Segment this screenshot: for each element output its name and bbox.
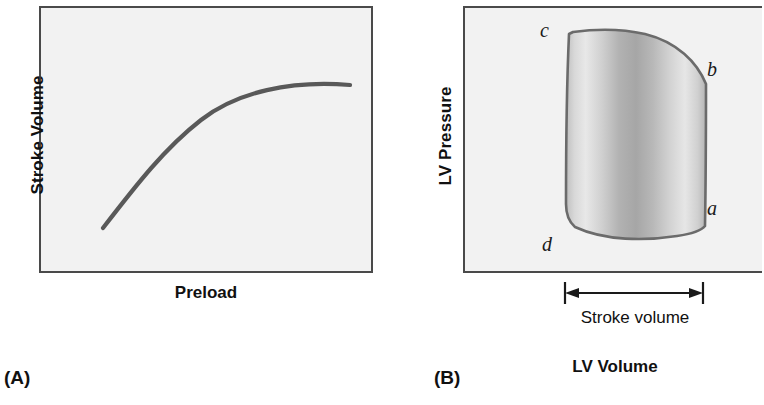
stroke-volume-dimension-arrow (555, 280, 715, 306)
panel-b-x-axis-label: LV Volume (520, 357, 710, 377)
frank-starling-curve (103, 84, 350, 228)
panel-b-y-axis-label: LV Pressure (436, 56, 456, 216)
panel-b-tag: (B) (434, 367, 460, 389)
panel-b-pv-loop-svg (465, 8, 764, 275)
pv-loop-point-label-a: a (707, 197, 717, 220)
stroke-volume-caption: Stroke volume (540, 308, 730, 328)
panel-a-x-axis-label: Preload (39, 283, 373, 303)
pv-loop-point-label-c: c (540, 19, 549, 42)
panel-a-curve-svg (41, 8, 375, 275)
panel-a-tag: (A) (4, 367, 30, 389)
pv-loop-point-label-d: d (542, 233, 552, 256)
stroke-volume-left-arrowhead (565, 288, 579, 298)
stroke-volume-right-arrowhead (689, 288, 703, 298)
panel-b-plot-box (463, 6, 762, 273)
panel-a-plot-box (39, 6, 373, 273)
panel-a-y-axis-label: Stroke Volume (28, 55, 48, 215)
pv-loop-path (566, 30, 706, 239)
pv-loop-point-label-b: b (707, 58, 717, 81)
